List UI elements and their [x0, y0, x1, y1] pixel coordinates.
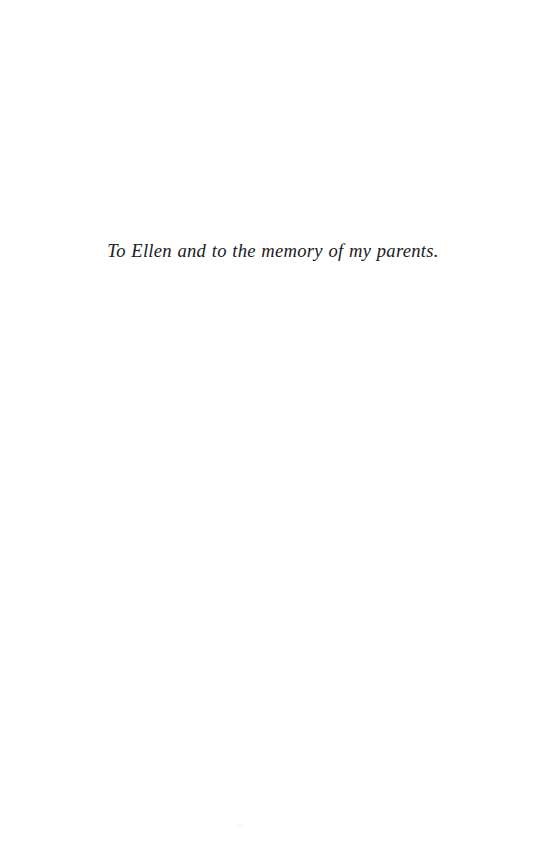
dedication-block: To Ellen and to the memory of my parents… — [0, 219, 552, 282]
scan-speck-artifact — [236, 824, 244, 828]
dedication-page: To Ellen and to the memory of my parents… — [0, 0, 552, 853]
dedication-text: To Ellen and to the memory of my parents… — [107, 238, 438, 264]
